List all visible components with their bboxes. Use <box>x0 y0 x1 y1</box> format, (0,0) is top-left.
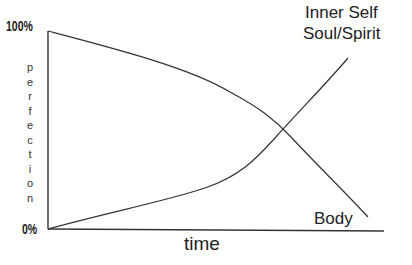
y-label-letter: t <box>24 147 36 162</box>
body-curve <box>48 31 368 217</box>
y-label-letter: n <box>24 191 36 206</box>
y-tick-100: 100% <box>6 18 33 34</box>
y-tick-0: 0% <box>22 221 37 237</box>
y-label-letter: e <box>24 118 36 133</box>
inner-self-curve <box>48 58 348 229</box>
y-label-letter: e <box>24 75 36 90</box>
body-label: Body <box>314 209 353 229</box>
y-axis-label: p e r f e c t i o n <box>24 60 36 205</box>
y-label-letter: r <box>24 89 36 104</box>
x-axis-label: time <box>184 233 220 255</box>
y-label-letter: f <box>24 104 36 119</box>
y-label-letter: o <box>24 176 36 191</box>
y-label-letter: c <box>24 133 36 148</box>
x-axis <box>48 229 384 231</box>
y-label-letter: i <box>24 162 36 177</box>
y-label-letter: p <box>24 60 36 75</box>
inner-self-label-line1: Inner Self <box>305 3 378 23</box>
inner-self-label-line2: Soul/Spirit <box>303 24 380 44</box>
